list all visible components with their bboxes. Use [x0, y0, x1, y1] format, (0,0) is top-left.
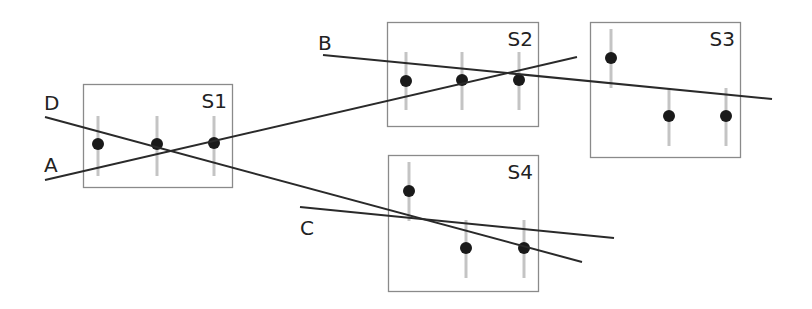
data-point	[403, 185, 415, 197]
fit-line-c	[300, 207, 614, 238]
data-point	[663, 110, 675, 122]
data-point	[720, 110, 732, 122]
data-point	[92, 138, 104, 150]
data-point	[460, 242, 472, 254]
data-point	[400, 75, 412, 87]
labels-group: ABCD	[44, 31, 332, 240]
panel-label: S2	[508, 27, 533, 51]
fit-line-a	[45, 57, 577, 180]
panel-s3: S3	[591, 23, 741, 158]
line-label-c: C	[300, 216, 314, 240]
line-label-a: A	[44, 153, 58, 177]
panel-label: S1	[202, 89, 227, 113]
fit-line-d	[45, 117, 582, 262]
fit-line-b	[323, 55, 772, 99]
data-point	[208, 137, 220, 149]
line-label-b: B	[318, 31, 332, 55]
panel-label: S4	[508, 160, 533, 184]
data-point	[513, 74, 525, 86]
data-point	[605, 52, 617, 64]
panel-s1: S1	[84, 85, 233, 188]
diagram-canvas: S1S2S3S4 ABCD	[0, 0, 812, 309]
panel-label: S3	[710, 27, 735, 51]
line-label-d: D	[44, 91, 59, 115]
